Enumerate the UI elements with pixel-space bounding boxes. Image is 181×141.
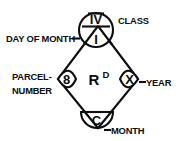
label-parcel-number-line2: NUMBER	[12, 85, 52, 96]
parcel-number-glyph: 8	[63, 72, 70, 87]
label-month: MONTH	[111, 125, 145, 136]
label-day-of-month: DAY OF MONTH	[6, 33, 75, 44]
month-glyph: C	[92, 113, 102, 128]
registered-design-mark-figure: IV I 8 X C R D CLASS DAY OF MONTH PARCEL…	[0, 0, 181, 141]
day-of-month-numeral: I	[94, 32, 98, 47]
center-rd-superscript: D	[103, 69, 110, 80]
label-year: YEAR	[146, 77, 172, 88]
diamond-mark-diagram: IV I 8 X C R D CLASS DAY OF MONTH PARCEL…	[0, 0, 181, 141]
center-rd-letter: R	[89, 71, 100, 88]
label-class: CLASS	[118, 15, 149, 26]
label-parcel-number-line1: PARCEL-	[12, 71, 52, 82]
year-glyph: X	[125, 72, 134, 87]
